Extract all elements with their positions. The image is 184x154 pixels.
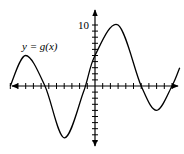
y-tick-label-10: 10 — [78, 19, 90, 31]
function-label: y = g(x) — [21, 40, 58, 53]
axes — [10, 10, 178, 146]
graph: 10 y = g(x) — [0, 0, 184, 154]
